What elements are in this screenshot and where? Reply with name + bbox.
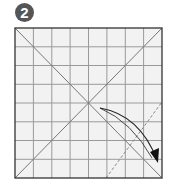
origami-fold-diagram <box>0 0 174 189</box>
